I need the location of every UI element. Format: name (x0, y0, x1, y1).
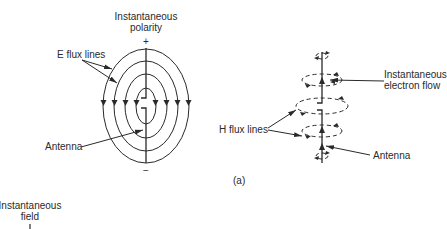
h-flux-lines-label: H flux lines (219, 124, 268, 135)
panel-label: (a) (233, 175, 245, 186)
antenna-element-top (141, 48, 146, 98)
antenna-element-bottom (141, 108, 146, 163)
minus-sign: − (143, 165, 149, 176)
antenna-label-right: Antenna (373, 150, 410, 161)
e-flux-pointer-1 (82, 60, 112, 69)
e-field-diagram (81, 48, 192, 163)
electron-flow-line2: electron flow (384, 80, 447, 91)
polarity-title-line1: Instantaneous (106, 11, 186, 22)
antenna-label-left: Antenna (45, 141, 82, 152)
polarity-title-line2: polarity (106, 22, 186, 33)
e-field-direction-arrows (101, 100, 192, 106)
antenna-pointer-right (326, 146, 370, 155)
polarity-title: Instantaneous polarity (106, 11, 186, 33)
instantaneous-field-label: Instantaneous field (0, 200, 62, 222)
field-label-line1: Instantaneous (0, 200, 62, 211)
h-flux-pointer-1 (268, 110, 296, 128)
field-label-line2: field (0, 211, 62, 222)
e-flux-lines-label: E flux lines (57, 49, 105, 60)
h-flux-pointer-2 (268, 130, 302, 136)
h-field-diagram (268, 51, 384, 163)
electron-flow-pointer (330, 80, 384, 81)
electron-flow-label: Instantaneous electron flow (384, 69, 447, 91)
electron-flow-line1: Instantaneous (384, 69, 447, 80)
plus-sign: + (143, 36, 149, 47)
antenna-pointer-left (81, 130, 143, 147)
